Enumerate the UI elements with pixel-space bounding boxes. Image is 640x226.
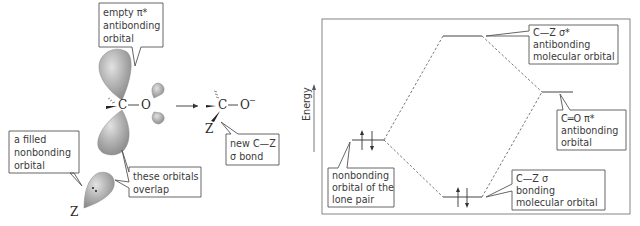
callout-new-bond: new C—Z σ bond (221, 122, 279, 165)
reactant-carbon: C (118, 98, 127, 112)
svg-text:these orbitals: these orbitals (133, 171, 199, 182)
callout-filled-nonbonding: a filled nonbonding orbital (9, 131, 82, 186)
svg-text:a filled: a filled (14, 134, 46, 145)
svg-text:molecular orbital: molecular orbital (533, 51, 615, 62)
oxygen-lobe-lower (152, 112, 164, 124)
svg-text:orbital: orbital (14, 160, 45, 171)
svg-text:orbital of the: orbital of the (332, 182, 394, 193)
svg-text:overlap: overlap (133, 184, 169, 195)
svg-text:orbital: orbital (561, 137, 592, 148)
svg-text:C—Z σ*: C—Z σ* (533, 27, 570, 38)
svg-text:orbital: orbital (103, 33, 134, 44)
oxygen-lobe-upper (152, 83, 164, 98)
lone-pair-dot (95, 190, 97, 192)
correlation-line (384, 36, 443, 140)
energy-axis-label: Energy (301, 87, 312, 121)
callout-overlap: these orbitals overlap (115, 150, 201, 197)
svg-text:new C—Z: new C—Z (230, 138, 276, 149)
svg-text:molecular orbital: molecular orbital (516, 197, 598, 208)
svg-text:antibonding: antibonding (103, 20, 160, 31)
energy-axis-arrowhead (312, 84, 316, 90)
pi-star-lobe-upper (99, 49, 131, 100)
svg-text:antibonding: antibonding (561, 125, 618, 136)
hash-bond (108, 98, 115, 103)
svg-text:σ bond: σ bond (230, 151, 263, 162)
product-cz-wedge (211, 111, 220, 122)
svg-text:lone pair: lone pair (332, 194, 374, 205)
pi-star-lobe-lower (98, 110, 129, 155)
nucleophile-lobe (84, 172, 114, 208)
svg-text:C—Z σ: C—Z σ (516, 173, 548, 184)
svg-text:antibonding: antibonding (533, 39, 590, 50)
callout-pi-star: C═O π* antibonding orbital (557, 94, 626, 150)
product-wedge (206, 105, 216, 108)
svg-text:C═O π*: C═O π* (561, 113, 595, 124)
oxide-charge: − (249, 96, 256, 105)
product-nucleophile: Z (205, 122, 213, 136)
callout-sigma: C—Z σ bonding molecular orbital (486, 170, 605, 210)
svg-text:empty π*: empty π* (103, 7, 148, 18)
reactant-oxygen: O (141, 98, 151, 112)
svg-text:nonbonding: nonbonding (14, 147, 71, 158)
energy-diagram-panel: Energy C—Z σ* antibonding molecular orbi… (301, 19, 630, 214)
reaction-diagram: C O Z C O − Z empty π* antibonding orbit… (0, 0, 640, 226)
callout-nonbonding: nonbonding orbital of the lone pair (328, 142, 394, 207)
product-hash (214, 91, 219, 98)
orbital-overlap-panel: C O Z C O − Z empty π* antibonding orbit… (9, 3, 279, 219)
product-carbon: C (218, 98, 227, 112)
wedge-bond (106, 106, 117, 109)
svg-text:bonding: bonding (516, 185, 555, 196)
reaction-arrow-head (193, 104, 198, 109)
nucleophile-label: Z (70, 205, 78, 219)
lone-pair-dot (92, 187, 94, 189)
svg-text:nonbonding: nonbonding (332, 170, 389, 181)
